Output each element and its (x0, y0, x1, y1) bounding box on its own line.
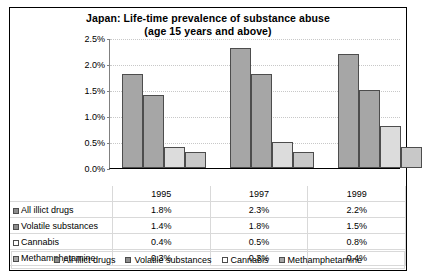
y-tick-label: 1.0% (84, 112, 105, 122)
table-cell: 1.4% (113, 218, 211, 234)
bar-group-1997 (218, 39, 326, 168)
series-swatch-icon (13, 240, 19, 246)
bar-methamphetamine-1995 (185, 152, 206, 168)
table-row-label-volatile-substances: Volatile substances (10, 218, 113, 234)
bar-methamphetamine-1997 (293, 152, 314, 168)
table-row-label-all-illict-drugs: All illict drugs (10, 202, 113, 218)
legend-swatch-icon (125, 257, 131, 263)
legend-item-all-illict-drugs: All illict drugs (54, 255, 116, 265)
y-tick-label: 2.5% (84, 34, 105, 44)
plot-wrapper: 2.5% 2.0% 1.5% 1.0% 0.5% 0.0% (10, 39, 406, 169)
table-year-header: 1997 (210, 186, 308, 202)
bar-volatile-substances-1999 (359, 90, 380, 168)
legend-swatch-icon (54, 257, 60, 263)
legend-item-methamphetamine: Methamphetamine (279, 255, 363, 265)
legend-label: Cannabis (231, 255, 269, 265)
bar-volatile-substances-1997 (251, 74, 272, 168)
table-corner-cell (10, 186, 113, 202)
table-cell: 1.5% (308, 218, 406, 234)
table-header-row: 1995 1997 1999 (10, 186, 406, 202)
legend-swatch-icon (279, 257, 285, 263)
legend-label: All illict drugs (63, 255, 116, 265)
bar-group-1995 (110, 39, 218, 168)
table-cell: 1.8% (210, 218, 308, 234)
table-cell: 0.5% (210, 234, 308, 250)
bar-all-illict-drugs-1997 (230, 48, 251, 168)
legend-swatch-icon (222, 257, 228, 263)
legend-label: Methamphetamine (288, 255, 363, 265)
bar-cannabis-1997 (272, 142, 293, 168)
chart-subtitle: (age 15 years and above) (10, 25, 406, 38)
chart-legend: All illict drugs Volatile substances Can… (11, 251, 405, 269)
table-row-label-cannabis: Cannabis (10, 234, 113, 250)
y-tick-label: 0.5% (84, 138, 105, 148)
legend-item-cannabis: Cannabis (222, 255, 269, 265)
row-label-text: All illict drugs (21, 205, 74, 215)
table-cell: 2.2% (308, 202, 406, 218)
y-tick-label: 0.0% (84, 164, 105, 174)
bar-groups (110, 39, 400, 168)
table-cell: 0.8% (308, 234, 406, 250)
legend-label: Volatile substances (134, 255, 211, 265)
bar-cannabis-1995 (164, 147, 185, 168)
bar-group-1999 (326, 39, 426, 168)
table-row: Cannabis 0.4% 0.5% 0.8% (10, 234, 406, 250)
chart-title-line1: Japan: Life-time prevalence of substance… (86, 12, 330, 24)
series-swatch-icon (13, 224, 19, 230)
chart-frame: Japan: Life-time prevalence of substance… (9, 7, 407, 271)
legend-item-volatile-substances: Volatile substances (125, 255, 211, 265)
y-tick-label: 1.5% (84, 86, 105, 96)
y-axis-labels: 2.5% 2.0% 1.5% 1.0% 0.5% 0.0% (10, 39, 109, 169)
row-label-text: Cannabis (21, 237, 59, 247)
y-tick-label: 2.0% (84, 60, 105, 70)
table-cell: 2.3% (210, 202, 308, 218)
bar-all-illict-drugs-1995 (122, 74, 143, 168)
series-swatch-icon (13, 208, 19, 214)
bar-volatile-substances-1995 (143, 95, 164, 168)
table-year-header: 1999 (308, 186, 406, 202)
bar-all-illict-drugs-1999 (338, 54, 359, 168)
plot-area (109, 39, 400, 169)
row-label-text: Volatile substances (21, 221, 98, 231)
table-row: Volatile substances 1.4% 1.8% 1.5% (10, 218, 406, 234)
y-tick-mark (107, 169, 110, 170)
table-cell: 0.4% (113, 234, 211, 250)
bar-cannabis-1999 (380, 126, 401, 168)
bar-methamphetamine-1999 (401, 147, 422, 168)
table-year-header: 1995 (113, 186, 211, 202)
table-row: All illict drugs 1.8% 2.3% 2.2% (10, 202, 406, 218)
table-cell: 1.8% (113, 202, 211, 218)
chart-title: Japan: Life-time prevalence of substance… (10, 8, 406, 38)
